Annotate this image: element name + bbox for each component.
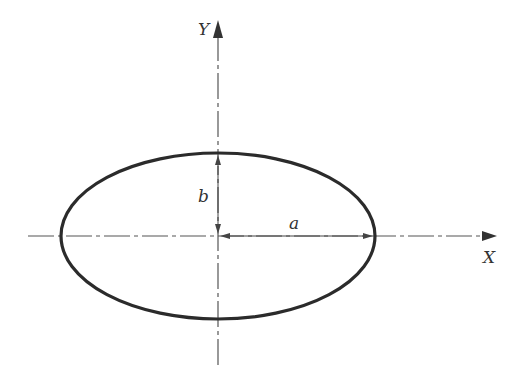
x-axis-label: X (481, 247, 496, 267)
ellipse-diagram: Y X b a (0, 0, 522, 376)
semi-major-label: a (289, 213, 299, 233)
semi-minor-arrow-top-icon (215, 155, 221, 165)
semi-minor-arrow-bottom-icon (215, 224, 221, 234)
semi-major-arrow-right-icon (363, 233, 373, 239)
y-axis-label: Y (198, 19, 211, 39)
x-axis-arrow-icon (482, 231, 497, 241)
y-axis-arrow-icon (213, 20, 223, 38)
semi-minor-label: b (198, 186, 209, 206)
semi-major-arrow-left-icon (220, 233, 230, 239)
